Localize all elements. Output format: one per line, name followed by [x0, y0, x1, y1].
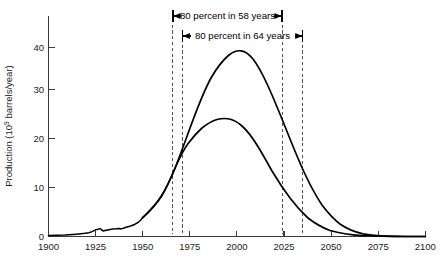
y-tick-label-30: 30	[33, 84, 44, 95]
axes-group	[49, 16, 426, 237]
y-axis-title-prefix: Production (10	[3, 125, 14, 187]
x-tick-label-1925: 1925	[85, 241, 106, 252]
x-tick-label-1950: 1950	[132, 241, 153, 252]
annotation-58-right-arrow	[275, 13, 282, 19]
annotation-64-right-arrow	[295, 33, 302, 39]
y-axis-ticks: 0 10 20 30 40	[33, 42, 54, 242]
annotation-span-58: 80 percent in 58 years	[173, 10, 282, 22]
x-tick-label-2075: 2075	[368, 241, 389, 252]
x-axis-ticks: 1900 1925 1950 1975 2000 2025 2050 2075 …	[38, 231, 436, 253]
y-tick-label-40: 40	[33, 42, 44, 53]
curves-group	[49, 51, 426, 237]
annotation-58-label: 80 percent in 58 years	[180, 10, 275, 21]
y-axis-title: Production (109 barrels/year)	[3, 65, 15, 186]
curve-high-resource-estimate	[143, 51, 426, 237]
x-tick-label-2050: 2050	[321, 241, 342, 252]
production-chart: 0 10 20 30 40 1900 1925 1950 1975 2000 2…	[0, 0, 448, 259]
y-tick-label-20: 20	[33, 133, 44, 144]
y-tick-label-10: 10	[33, 182, 44, 193]
x-tick-label-2000: 2000	[226, 241, 247, 252]
annotation-64-label: 80 percent in 64 years	[195, 30, 290, 41]
y-axis-title-group: Production (109 barrels/year)	[3, 65, 15, 186]
annotation-64-left-arrow	[183, 33, 190, 39]
annotation-span-64: 80 percent in 64 years	[182, 30, 302, 42]
x-tick-label-1975: 1975	[179, 241, 200, 252]
x-tick-label-1900: 1900	[38, 241, 59, 252]
x-tick-label-2025: 2025	[273, 241, 294, 252]
x-tick-label-2100: 2100	[415, 241, 436, 252]
chart-canvas: 0 10 20 30 40 1900 1925 1950 1975 2000 2…	[0, 0, 448, 259]
y-axis-title-suffix: barrels/year)	[3, 65, 14, 121]
curve-low-resource-estimate	[143, 119, 426, 237]
